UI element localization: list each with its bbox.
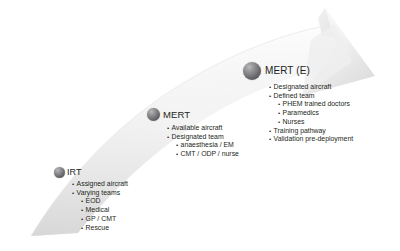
list-item: Available aircraft <box>167 124 239 133</box>
milestone-merte-header: MERT (E) <box>243 62 353 80</box>
list-item: Defined team <box>269 92 353 101</box>
milestone-merte-title: MERT (E) <box>265 66 310 76</box>
list-item: Medical <box>72 206 128 215</box>
milestone-merte-bullets: Designated aircraft Defined team PHEM tr… <box>269 83 353 144</box>
milestone-mert-bullets: Available aircraft Designated team anaes… <box>167 124 239 159</box>
list-item: Designated team <box>167 133 239 142</box>
diagram-canvas: IRT Assigned aircraft Varying teams EOD … <box>0 0 400 251</box>
sphere-marker-icon <box>147 108 160 121</box>
list-item: GP / CMT <box>72 215 128 224</box>
milestone-mert-title: MERT <box>163 110 190 120</box>
milestone-merte[interactable]: MERT (E) Designated aircraft Defined tea… <box>243 62 353 144</box>
list-item: Assigned aircraft <box>72 180 128 189</box>
list-item: Designated aircraft <box>269 83 353 92</box>
list-item: PHEM trained doctors <box>269 100 353 109</box>
list-item: Validation pre-deployment <box>269 135 353 144</box>
list-item: Paramedics <box>269 109 353 118</box>
milestone-irt-title: IRT <box>67 168 82 177</box>
milestone-irt-bullets: Assigned aircraft Varying teams EOD Medi… <box>72 180 128 232</box>
list-item: CMT / ODP / nurse <box>167 150 239 159</box>
milestone-irt-header: IRT <box>54 167 128 178</box>
list-item: Rescue <box>72 224 128 233</box>
list-item: EOD <box>72 197 128 206</box>
list-item: anaesthesia / EM <box>167 141 239 150</box>
sphere-marker-icon <box>54 167 65 178</box>
list-item: Training pathway <box>269 127 353 136</box>
milestone-mert[interactable]: MERT Available aircraft Designated team … <box>147 108 239 159</box>
milestone-mert-header: MERT <box>147 108 239 121</box>
list-item: Nurses <box>269 118 353 127</box>
sphere-marker-icon <box>243 62 261 80</box>
list-item: Varying teams <box>72 189 128 198</box>
milestone-irt[interactable]: IRT Assigned aircraft Varying teams EOD … <box>54 167 128 232</box>
